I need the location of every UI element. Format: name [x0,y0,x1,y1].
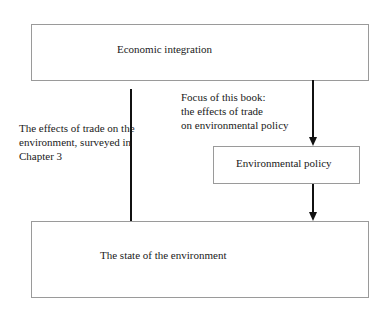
arrow-trade-to-policy-shaft [312,80,314,138]
edge-label-line: on environmental policy [181,118,289,132]
node-label-environmental-policy: Environmental policy [236,157,332,169]
edge-label-line: Focus of this book: [181,90,289,104]
edge-label-focus-of-book: Focus of this book: the effects of trade… [181,90,289,132]
node-label-economic-integration: Economic integration [117,43,212,55]
node-economic-integration: Economic integration [31,24,369,81]
arrow-trade-to-policy-head-icon [309,137,317,146]
node-state-of-environment: The state of the environment [31,221,369,298]
edge-label-line: The effects of trade on the [19,121,135,135]
edge-label-line: environment, surveyed in [19,135,135,149]
node-environmental-policy: Environmental policy [213,146,360,184]
edge-label-line: Chapter 3 [19,149,135,163]
edge-label-trade-effects-on-environment: The effects of trade on the environment,… [19,121,135,163]
arrow-policy-to-environment-shaft [312,184,314,213]
edge-label-line: the effects of trade [181,104,289,118]
node-label-state-of-environment: The state of the environment [100,249,226,261]
arrow-policy-to-environment-head-icon [309,212,317,221]
